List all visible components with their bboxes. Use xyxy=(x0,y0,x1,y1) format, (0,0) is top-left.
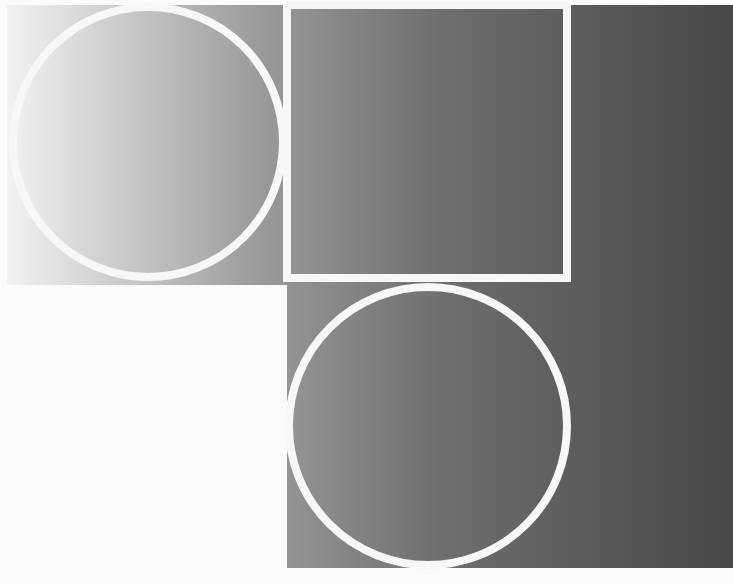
gradient-field xyxy=(7,5,733,568)
artwork-canvas xyxy=(0,0,733,584)
geometric-artwork xyxy=(0,0,733,584)
